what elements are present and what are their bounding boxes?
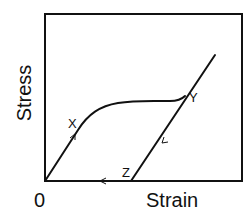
stress-strain-diagram xyxy=(0,0,252,219)
x-axis-title: Strain xyxy=(146,190,198,210)
arrow-down-icon xyxy=(162,137,168,143)
y-axis-title: Stress xyxy=(14,63,34,123)
point-label-z: Z xyxy=(122,166,130,179)
unloading-line xyxy=(131,55,215,181)
point-label-x: X xyxy=(68,117,77,130)
origin-label: 0 xyxy=(34,190,45,210)
plot-frame xyxy=(45,14,242,181)
point-label-y: Y xyxy=(189,91,198,104)
